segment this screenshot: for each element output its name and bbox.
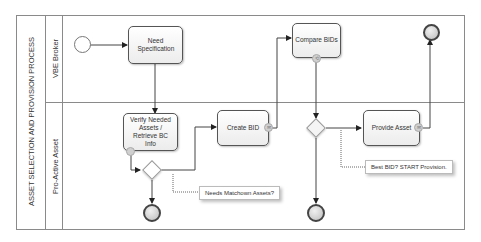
boundary-event-icon: [126, 147, 135, 156]
bpmn-diagram: ASSET SELECTION AND PROVISION PROCESS VB…: [0, 0, 481, 242]
loop-marker-icon: ⟲: [312, 54, 321, 63]
task-create-bid[interactable]: Create BID: [217, 110, 269, 146]
task-label: Provide Asset: [372, 124, 412, 132]
task-need-specification[interactable]: Need Specification: [128, 26, 183, 64]
task-provide-asset[interactable]: Provide Asset: [363, 110, 420, 146]
task-verify-needed-assets[interactable]: Verify Needed Assets / Retrieve BC Info: [123, 113, 178, 151]
task-label: Verify Needed Assets / Retrieve BC Info: [128, 116, 174, 149]
end-event-broker[interactable]: [423, 24, 440, 41]
end-event-match[interactable]: [143, 204, 161, 222]
task-compare-bids[interactable]: Compare BIDs: [292, 23, 341, 58]
end-event-best-bid[interactable]: [307, 204, 325, 222]
annotation-best-bid: Best BID? START Provision.: [365, 160, 453, 174]
task-label: Compare BIDs: [295, 36, 338, 44]
task-label: Create BID: [227, 124, 259, 132]
start-event[interactable]: [74, 36, 91, 53]
message-marker-icon: ✉: [414, 123, 423, 132]
annotation-needs-match: Needs Matchown Assets?: [199, 186, 280, 200]
task-label: Need Specification: [138, 37, 174, 53]
message-marker-icon: ✉: [264, 123, 273, 132]
